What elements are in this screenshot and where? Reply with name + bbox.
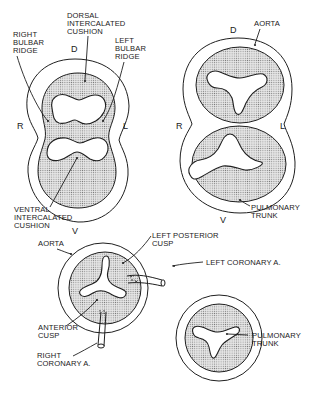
- left-coronary-opening: [161, 280, 165, 286]
- label-left-coronary: LEFT CORONARY A.: [206, 258, 281, 267]
- orientation-left: L: [123, 121, 128, 131]
- label-dorsal-cushion-3: CUSHION: [67, 27, 103, 36]
- leader-aorta: [255, 29, 260, 44]
- label-right-coronary-2: CORONARY A.: [37, 359, 91, 368]
- label-aorta: AORTA: [254, 19, 281, 28]
- right-coronary-opening: [98, 344, 105, 348]
- label-left-ridge-3: RIDGE: [115, 52, 140, 61]
- label-left-posterior-cusp-2: CUSP: [152, 239, 174, 248]
- orientation-right: R: [176, 121, 183, 131]
- label-pulmonary-2: TRUNK: [252, 339, 279, 348]
- panel-a-truncus: D R L V DORSAL INTERCALATED CUSHION RIGH…: [13, 11, 146, 236]
- orientation-dorsal: D: [71, 44, 78, 54]
- panel-c-valves: AORTA LEFT POSTERIOR CUSP LEFT CORONARY …: [37, 231, 301, 381]
- embryology-diagram: D R L V DORSAL INTERCALATED CUSHION RIGH…: [0, 0, 316, 407]
- orientation-dorsal: D: [230, 25, 237, 35]
- orientation-left: L: [280, 121, 285, 131]
- label-aorta: AORTA: [38, 239, 65, 248]
- orientation-ventral: V: [72, 226, 78, 236]
- orientation-right: R: [17, 121, 24, 131]
- label-ventral-cushion-3: CUSHION: [14, 221, 50, 230]
- leader-left-coronary: [172, 262, 203, 266]
- leader-right-coronary: [73, 343, 97, 356]
- label-anterior-cusp-2: CUSP: [38, 331, 60, 340]
- label-right-ridge-3: RIDGE: [13, 46, 38, 55]
- orientation-ventral: V: [220, 215, 226, 225]
- label-pulmonary-2: TRUNK: [251, 211, 278, 220]
- leader-aorta: [57, 249, 71, 254]
- panel-b-separated-vessels: D R L V AORTA PULMONARY TRUNK: [176, 19, 300, 225]
